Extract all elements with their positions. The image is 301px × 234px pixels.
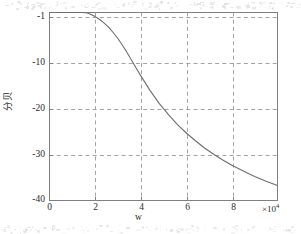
- y-tick-label-3: -30: [16, 150, 45, 160]
- plot-svg: [0, 0, 301, 234]
- y-tick-label-1: -10: [16, 58, 45, 68]
- x-tick-label-4: 8: [225, 203, 242, 213]
- x-axis-label: w: [135, 213, 142, 223]
- plot-box: [50, 13, 278, 201]
- x-axis-exponent-label: ×104: [262, 203, 279, 214]
- y-tick-label-0: -1: [16, 12, 45, 22]
- x-axis-exponent-base: ×10: [262, 204, 276, 214]
- figure-canvas: -1 -10 -20 -30 -40 0 2 4 6 8 ×104 分贝 w: [0, 0, 301, 234]
- x-tick-label-1: 2: [87, 203, 104, 213]
- x-tick-label-0: 0: [41, 203, 58, 213]
- x-tick-label-3: 6: [179, 203, 196, 213]
- x-axis-exponent-power: 4: [276, 202, 279, 209]
- y-tick-label-2: -20: [16, 104, 45, 114]
- y-axis-label: 分贝: [4, 79, 14, 123]
